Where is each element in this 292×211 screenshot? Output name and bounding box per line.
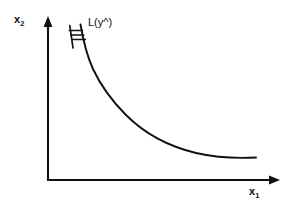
x-axis-label-subscript: 1 — [255, 191, 259, 200]
y-axis-label: x2 — [14, 14, 24, 28]
hatch-spine — [70, 26, 73, 49]
isoquant-figure: x2 x1 L(y^) — [0, 0, 292, 211]
isoquant-label-main: L(y — [88, 16, 103, 28]
isoquant-curve — [81, 25, 257, 158]
isoquant-curve-label: L(y^) — [88, 17, 112, 28]
figure-canvas — [0, 0, 292, 211]
arrowhead-up-icon — [44, 16, 53, 27]
axes-group — [44, 16, 280, 184]
isoquant-curve-group — [81, 25, 257, 158]
arrowhead-right-icon — [269, 176, 280, 185]
y-axis-label-subscript: 2 — [20, 19, 24, 28]
x-axis-label: x1 — [249, 186, 259, 200]
isoquant-label-close: ) — [108, 16, 112, 28]
